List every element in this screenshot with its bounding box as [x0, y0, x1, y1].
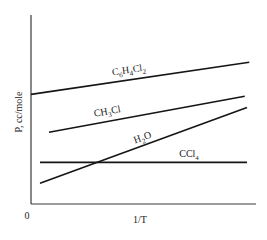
chart: 0 1/T P, cc/mole C6H4Cl2CH3ClH2OCCl4 — [0, 0, 267, 240]
series-layer: C6H4Cl2CH3ClH2OCCl4 — [31, 61, 249, 183]
x-origin-label: 0 — [25, 210, 30, 221]
y-axis-label: P, cc/mole — [13, 91, 24, 133]
series-label-h2o: H2O — [132, 129, 154, 148]
series-label-ccl4: CCl4 — [179, 148, 199, 162]
x-axis-label: 1/T — [133, 214, 147, 225]
series-line-ch3cl — [49, 96, 245, 132]
